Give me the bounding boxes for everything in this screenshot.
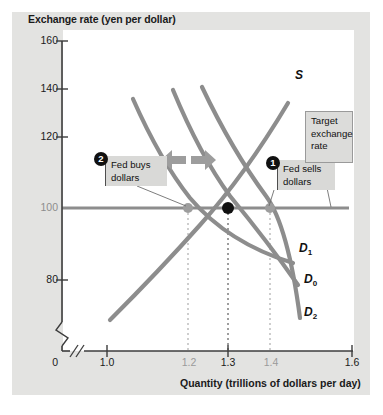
supply-curve-s bbox=[110, 103, 288, 320]
curve-label-d1-text: D bbox=[299, 241, 308, 255]
exchange-rate-figure: Exchange rate (yen per dollar) Quantity … bbox=[0, 0, 383, 415]
equilibrium-point bbox=[222, 202, 234, 214]
callout-target-line1: Target bbox=[311, 115, 347, 128]
curve-label-s: S bbox=[295, 68, 303, 82]
badge-1: 1 bbox=[266, 156, 280, 170]
curve-label-d0: D0 bbox=[304, 272, 317, 288]
curve-label-d2-sub: 2 bbox=[313, 312, 317, 321]
callout-fed-sells-line2: dollars bbox=[283, 176, 330, 189]
curve-label-d0-text: D bbox=[304, 272, 313, 286]
leader-line-fed-buys bbox=[137, 186, 186, 206]
curve-label-d1-sub: 1 bbox=[308, 248, 312, 257]
callout-fed-sells-dollars: Fed sells dollars bbox=[277, 160, 335, 190]
callout-target-line3: rate bbox=[311, 140, 347, 153]
callout-fed-sells-line1: Fed sells bbox=[283, 163, 330, 176]
curve-label-d1: D1 bbox=[299, 241, 312, 257]
callout-target-exchange-rate: Target exchange rate bbox=[305, 111, 353, 163]
callout-target-line2: exchange bbox=[311, 128, 347, 141]
callout-fed-buys-dollars: Fed buys dollars bbox=[105, 156, 167, 186]
badge-2: 2 bbox=[94, 152, 108, 166]
callout-fed-buys-line2: dollars bbox=[111, 172, 162, 185]
curve-label-s-text: S bbox=[295, 68, 303, 82]
curve-label-d0-sub: 0 bbox=[313, 279, 317, 288]
curve-label-d2-text: D bbox=[304, 305, 313, 319]
fed-buys-point bbox=[183, 203, 193, 213]
chart-svg bbox=[0, 0, 383, 415]
y-axis-break bbox=[56, 322, 68, 346]
fed-sells-point bbox=[265, 203, 275, 213]
callout-fed-buys-line1: Fed buys bbox=[111, 159, 162, 172]
curve-label-d2: D2 bbox=[304, 305, 317, 321]
